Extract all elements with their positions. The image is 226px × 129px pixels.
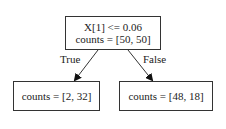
- edge-label-true: True: [60, 53, 80, 65]
- root-node: X[1] <= 0.06 counts = [50, 50]: [65, 16, 161, 50]
- root-condition: X[1] <= 0.06: [84, 21, 142, 33]
- left-leaf-counts: counts = [2, 32]: [22, 90, 92, 102]
- right-leaf-node: counts = [48, 18]: [119, 81, 213, 111]
- right-leaf-counts: counts = [48, 18]: [128, 90, 203, 102]
- root-counts: counts = [50, 50]: [75, 33, 150, 45]
- left-leaf-node: counts = [2, 32]: [13, 81, 100, 111]
- edge-label-false: False: [143, 53, 166, 65]
